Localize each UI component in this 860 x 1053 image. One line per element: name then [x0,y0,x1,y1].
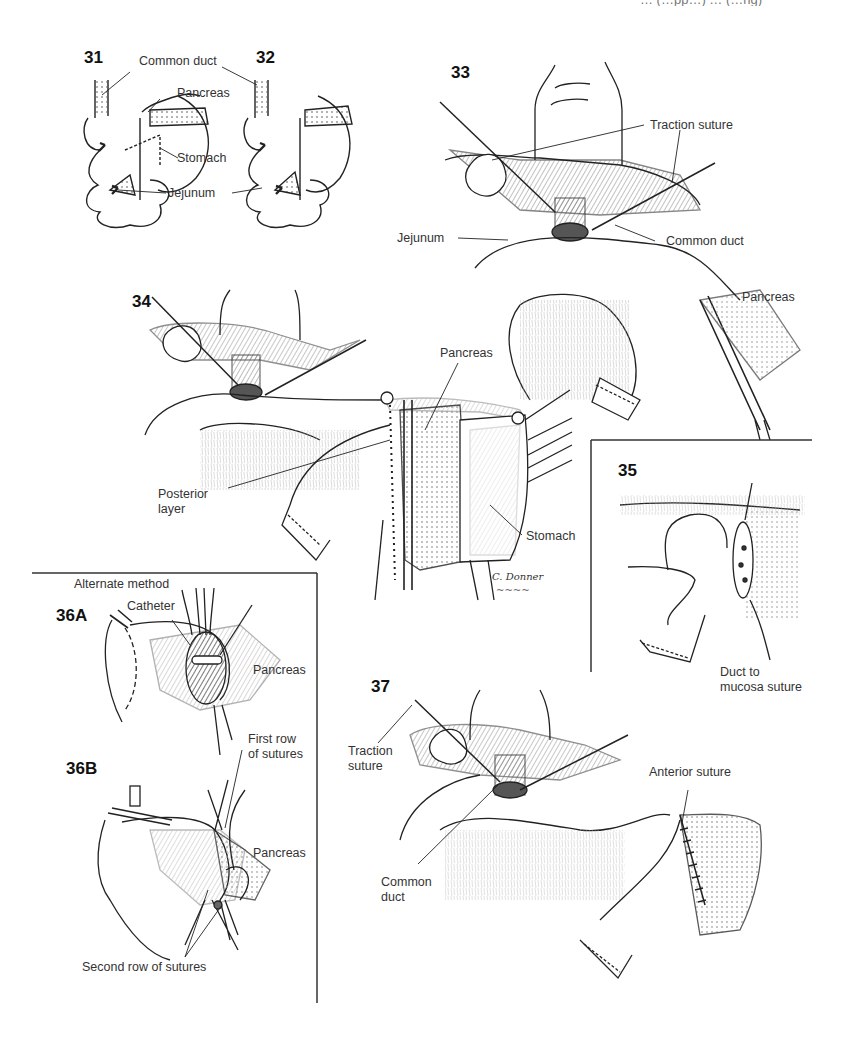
label-second-row-of-sutures: Second row of sutures [82,960,206,975]
label-jejunum: Jejunum [397,231,444,246]
label-common-duct: Common duct [139,54,217,69]
figure-33-drawing [440,62,800,440]
figure-number-35: 35 [618,461,637,481]
figure-number-36a: 36A [56,606,87,626]
label-common-duct-line2: duct [381,890,405,905]
label-alternate-method: Alternate method [74,577,169,592]
label-traction-suture-line2: suture [348,759,383,774]
figure-number-31: 31 [84,48,103,68]
label-common-duct: Common duct [666,234,744,249]
label-first-row-line1: First row [248,732,296,747]
figure-number-32: 32 [256,48,275,68]
label-catheter: Catheter [127,599,175,614]
label-posterior-layer-line1: Posterior [158,487,208,502]
label-pancreas-36b: Pancreas [253,846,306,861]
label-jejunum: Jejunum [168,186,215,201]
label-pancreas-36a: Pancreas [253,663,306,678]
figure-number-33: 33 [451,63,470,83]
label-traction-suture-line1: Traction [348,744,393,759]
figure-34-drawing [145,290,572,600]
label-common-duct-line1: Common [381,875,432,890]
figure-36b-drawing [98,780,270,960]
label-duct-to-mucosa-line1: Duct to [720,665,760,680]
label-anterior-suture: Anterior suture [649,765,731,780]
figure-number-34: 34 [132,292,151,312]
figure-number-37: 37 [371,677,390,697]
label-duct-to-mucosa-line2: mucosa suture [720,680,802,695]
label-stomach: Stomach [177,151,226,166]
label-posterior-layer-line2: layer [158,502,185,517]
artist-signature-scribble: ~~~~ [496,584,530,595]
figure-35-drawing [620,483,805,662]
figure-32-drawing [244,80,352,227]
illustration-line-art [0,0,860,1053]
label-pancreas: Pancreas [177,86,230,101]
label-stomach: Stomach [526,529,575,544]
label-pancreas: Pancreas [742,290,795,305]
label-pancreas: Pancreas [440,346,493,361]
label-traction-suture: Traction suture [650,118,733,133]
figure-number-36b: 36B [66,759,97,779]
artist-signature: C. Donner [492,571,543,582]
figure-37-drawing [400,690,761,978]
label-first-row-line2: of sutures [248,747,303,762]
